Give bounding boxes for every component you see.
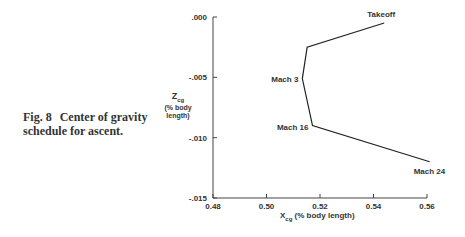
x-tick-label: 0.54 xyxy=(366,202,382,211)
y-tick-label: -.005 xyxy=(189,73,208,82)
cg-schedule-line xyxy=(302,23,429,162)
point-label: Mach 24 xyxy=(414,167,446,176)
y-tick-label: -.010 xyxy=(189,134,208,143)
y-tick-label: .000 xyxy=(191,13,207,22)
point-label: Takeoff xyxy=(367,10,395,19)
x-tick-label: 0.56 xyxy=(419,202,435,211)
x-tick-label: 0.52 xyxy=(312,202,328,211)
point-label: Mach 3 xyxy=(271,75,299,84)
chart-plot: .000-.005-.010-.0150.480.500.520.540.56T… xyxy=(0,0,465,237)
point-label: Mach 16 xyxy=(277,123,309,132)
x-tick-label: 0.50 xyxy=(259,202,275,211)
x-tick-label: 0.48 xyxy=(205,202,221,211)
